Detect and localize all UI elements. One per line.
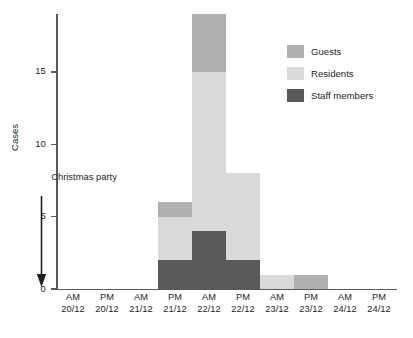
x-label-date: 20/12 (90, 304, 124, 316)
x-axis-label: PM20/12 (90, 292, 124, 315)
bar-segment (226, 173, 260, 260)
x-label-period: AM (56, 292, 90, 304)
x-axis-label: AM20/12 (56, 292, 90, 315)
down-arrow-icon (36, 196, 47, 288)
x-label-period: AM (192, 292, 226, 304)
bar-segment (158, 202, 192, 216)
x-label-date: 22/12 (226, 304, 260, 316)
x-label-period: PM (226, 292, 260, 304)
bar-column (294, 275, 328, 289)
bar-segment (192, 72, 226, 231)
epidemic-curve-chart: Cases 051015 AM20/12PM20/12AM21/12PM21/1… (0, 0, 413, 338)
x-label-period: AM (124, 292, 158, 304)
x-axis-labels: AM20/12PM20/12AM21/12PM21/12AM22/12PM22/… (56, 292, 397, 332)
annotation-text: Christmas party (47, 171, 121, 183)
legend-swatch (287, 67, 304, 80)
legend-swatch (287, 45, 304, 58)
annotation-line-2: party (96, 171, 117, 182)
x-label-period: AM (328, 292, 362, 304)
bar-segment (192, 14, 226, 72)
bar-segment (158, 217, 192, 260)
bar-column (226, 173, 260, 289)
x-axis-label: PM23/12 (294, 292, 328, 315)
bar-column (260, 275, 294, 289)
x-axis-label: AM22/12 (192, 292, 226, 315)
annotation-line-1: Christmas (51, 171, 93, 182)
bar-segment (158, 260, 192, 289)
x-label-date: 24/12 (328, 304, 362, 316)
bar-column (192, 14, 226, 289)
x-label-period: PM (362, 292, 396, 304)
x-label-date: 20/12 (56, 304, 90, 316)
x-label-date: 23/12 (260, 304, 294, 316)
x-label-date: 22/12 (192, 304, 226, 316)
christmas-party-annotation: Christmas party (47, 171, 121, 183)
bar-segment (260, 275, 294, 289)
legend-item: Staff members (287, 86, 407, 105)
x-label-date: 21/12 (124, 304, 158, 316)
x-label-period: PM (294, 292, 328, 304)
y-tick-label-15: 15 (16, 65, 46, 76)
bar-segment (226, 260, 260, 289)
x-label-period: PM (90, 292, 124, 304)
x-axis-label: AM24/12 (328, 292, 362, 315)
legend-item: Residents (287, 64, 407, 83)
legend-item: Guests (287, 42, 407, 61)
x-axis-label: AM23/12 (260, 292, 294, 315)
legend-swatch (287, 89, 304, 102)
x-label-date: 24/12 (362, 304, 396, 316)
bar-segment (294, 275, 328, 289)
y-tick-label-10: 10 (16, 138, 46, 149)
legend-label: Staff members (311, 90, 373, 101)
x-label-date: 21/12 (158, 304, 192, 316)
legend-label: Guests (311, 46, 341, 57)
chart-legend: GuestsResidentsStaff members (287, 42, 407, 108)
x-label-period: PM (158, 292, 192, 304)
x-axis-label: PM24/12 (362, 292, 396, 315)
x-label-period: AM (260, 292, 294, 304)
x-label-date: 23/12 (294, 304, 328, 316)
legend-label: Residents (311, 68, 354, 79)
x-axis-label: PM22/12 (226, 292, 260, 315)
x-axis-label: AM21/12 (124, 292, 158, 315)
bar-column (158, 202, 192, 289)
bar-segment (192, 231, 226, 289)
x-axis-label: PM21/12 (158, 292, 192, 315)
